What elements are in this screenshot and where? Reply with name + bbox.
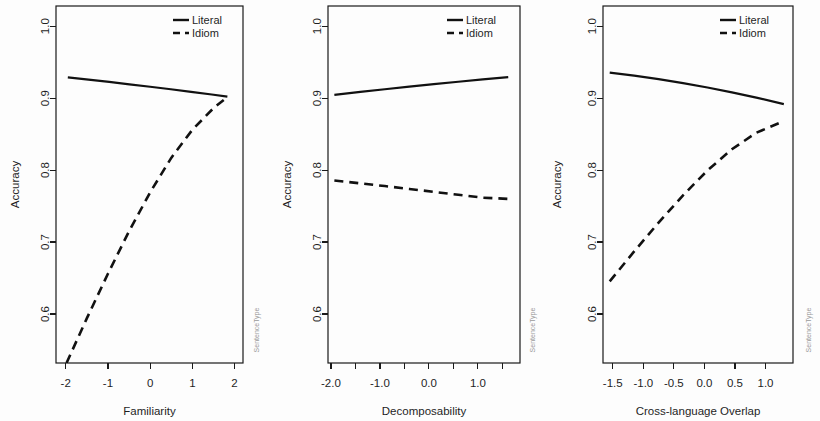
panel-decomposability: 0.60.70.80.91.0-2.0-1.00.01.0Decomposabi… xyxy=(272,0,540,421)
y-tick-label: 0.6 xyxy=(39,306,51,322)
x-axis-title: Decomposability xyxy=(382,405,467,417)
strip-label: SentenceType xyxy=(253,308,261,353)
chart-2: 0.60.70.80.91.0-2.0-1.00.01.0Decomposabi… xyxy=(272,0,540,421)
legend: LiteralIdiom xyxy=(173,14,222,39)
y-tick-label: 0.9 xyxy=(39,90,51,106)
plot-frame xyxy=(56,6,243,363)
chart-1: 0.60.70.80.91.0-2-1012FamiliarityAccurac… xyxy=(0,0,270,421)
x-tick-label: 0 xyxy=(147,377,153,389)
y-axis: 0.60.70.80.91.0 xyxy=(39,18,56,322)
y-tick-label: 0.6 xyxy=(311,306,323,322)
x-tick-label: 0.5 xyxy=(727,377,743,389)
x-tick-label: -1 xyxy=(103,377,113,389)
legend-label-literal: Literal xyxy=(739,14,769,26)
legend-label-idiom: Idiom xyxy=(739,27,766,39)
series-group xyxy=(67,77,228,363)
y-tick-label: 0.9 xyxy=(311,90,323,106)
y-tick-label: 1.0 xyxy=(39,18,51,34)
series-line-idiom xyxy=(610,121,784,281)
panel-familiarity: 0.60.70.80.91.0-2-1012FamiliarityAccurac… xyxy=(0,0,270,421)
x-tick-label: 1.0 xyxy=(758,377,774,389)
x-tick-label: -2.0 xyxy=(321,377,341,389)
x-tick-label: 1 xyxy=(189,377,195,389)
y-tick-label: 0.8 xyxy=(39,162,51,178)
y-tick-label: 0.8 xyxy=(311,162,323,178)
x-axis: -2-1012 xyxy=(61,363,238,389)
legend: LiteralIdiom xyxy=(447,14,496,39)
x-axis-title: Familiarity xyxy=(123,405,176,417)
legend-label-idiom: Idiom xyxy=(192,27,219,39)
x-axis: -2.0-1.00.01.0 xyxy=(321,363,502,389)
panel-cross-language-overlap: 0.60.70.80.91.0-1.5-1.0-0.50.00.51.0Cros… xyxy=(542,0,820,421)
y-tick-label: 0.9 xyxy=(586,90,598,106)
x-axis: -1.5-1.0-0.50.00.51.0 xyxy=(603,363,774,389)
y-axis-title: Accuracy xyxy=(281,161,293,209)
legend-label-literal: Literal xyxy=(466,14,496,26)
x-tick-label: 2 xyxy=(231,377,237,389)
x-tick-label: -1.0 xyxy=(633,377,653,389)
x-axis-title: Cross-language Overlap xyxy=(636,405,761,417)
plot-frame xyxy=(603,6,793,363)
series-group xyxy=(610,73,784,282)
y-tick-label: 0.7 xyxy=(39,234,51,250)
x-tick-label: 0.0 xyxy=(696,377,712,389)
series-line-literal xyxy=(610,73,784,105)
plot-frame xyxy=(328,6,520,363)
series-line-idiom xyxy=(67,97,228,363)
legend: LiteralIdiom xyxy=(720,14,769,39)
y-axis: 0.60.70.80.91.0 xyxy=(586,18,603,322)
y-axis-title: Accuracy xyxy=(9,161,21,209)
legend-label-idiom: Idiom xyxy=(466,27,493,39)
figure-canvas: 0.60.70.80.91.0-2-1012FamiliarityAccurac… xyxy=(0,0,820,421)
strip-label: SentenceType xyxy=(805,308,813,353)
x-tick-label: -0.5 xyxy=(664,377,684,389)
y-tick-label: 1.0 xyxy=(311,18,323,34)
x-tick-label: -1.0 xyxy=(370,377,390,389)
x-tick-label: 0.0 xyxy=(421,377,437,389)
y-tick-label: 1.0 xyxy=(586,18,598,34)
series-line-literal xyxy=(334,77,508,95)
x-tick-label: -2 xyxy=(61,377,71,389)
x-tick-label: 1.0 xyxy=(470,377,486,389)
y-axis-title: Accuracy xyxy=(551,161,563,209)
y-tick-label: 0.7 xyxy=(311,234,323,250)
y-axis: 0.60.70.80.91.0 xyxy=(311,18,328,322)
legend-label-literal: Literal xyxy=(192,14,222,26)
y-tick-label: 0.8 xyxy=(586,162,598,178)
series-line-idiom xyxy=(334,181,508,199)
series-line-literal xyxy=(68,77,228,96)
series-group xyxy=(334,77,508,199)
x-tick-label: -1.5 xyxy=(603,377,623,389)
y-tick-label: 0.7 xyxy=(586,234,598,250)
y-tick-label: 0.6 xyxy=(586,306,598,322)
chart-3: 0.60.70.80.91.0-1.5-1.0-0.50.00.51.0Cros… xyxy=(542,0,820,421)
strip-label: SentenceType xyxy=(529,308,537,353)
